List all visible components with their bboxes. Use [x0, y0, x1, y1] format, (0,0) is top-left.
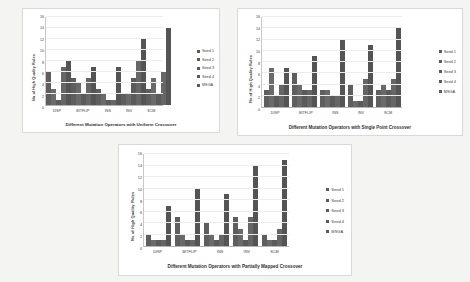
legend-item-seed-4: Seed 4 [197, 75, 214, 79]
y-axis-tick-label: 10 [138, 188, 142, 192]
bar-groups [144, 154, 289, 246]
x-axis-tick-label: SCM [270, 250, 278, 254]
grid-line [46, 38, 163, 39]
legend-item-seed-1: Seed 1 [326, 187, 344, 192]
y-axis-tick-label: 12 [256, 38, 260, 42]
y-axis-tick-labels: 0246810121416 [119, 145, 142, 275]
bar-group-disp [146, 154, 171, 246]
y-axis-tick-labels: 0246810121416 [238, 9, 260, 135]
grid-line [144, 234, 289, 235]
bar-group-scm [146, 17, 171, 105]
grid-line [262, 16, 402, 17]
legend-label: Seed 2 [444, 59, 456, 64]
y-axis-tick-label: 8 [42, 61, 44, 65]
grid-line [46, 71, 163, 72]
grid-line [144, 211, 289, 212]
bar-bitflip-msga [312, 56, 317, 107]
x-axis-tick-labels: DISPBITFLIPINSINVSCM [143, 250, 289, 254]
bar-group-ins [96, 17, 121, 105]
x-axis-tick-label: BITFLIP [76, 109, 89, 113]
y-axis-tick-label: 14 [40, 26, 44, 30]
legend-label: Seed 3 [444, 69, 456, 74]
y-axis-tick-label: 16 [138, 152, 142, 156]
legend-label: MSGA [202, 83, 213, 87]
y-axis-tick-label: 0 [42, 106, 44, 110]
grid-line [144, 188, 289, 189]
grid-line [46, 27, 163, 28]
legend-item-seed-4: Seed 4 [439, 79, 456, 84]
bar-group-scm [262, 154, 287, 246]
bar-disp-msga [284, 68, 289, 107]
y-axis-tick-label: 12 [40, 38, 44, 42]
y-axis-tick-label: 6 [140, 211, 142, 215]
legend-swatch-icon [326, 188, 329, 191]
bar-scm-msga [166, 28, 171, 105]
bar-disp-msga [166, 206, 171, 246]
legend-swatch-icon [439, 80, 442, 83]
x-axis-tick-label: INS [332, 111, 338, 115]
chart-panel-single-point-crossover: No of High Quality Rules 0246810121416 D… [237, 8, 463, 136]
grid-line [262, 61, 402, 62]
grid-line [46, 93, 163, 94]
grid-line [262, 95, 402, 96]
y-axis-tick-label: 4 [140, 223, 142, 227]
y-axis-tick-label: 2 [140, 235, 142, 239]
y-axis-tick-label: 0 [258, 108, 260, 112]
legend-uniform: Seed 1Seed 2Seed 3Seed 4MSGA [197, 49, 214, 87]
bar-group-bitflip [71, 17, 96, 105]
legend-swatch-icon [439, 70, 442, 73]
legend-label: MSGA [331, 229, 343, 234]
bar-groups [46, 17, 163, 105]
x-axis-tick-label: INV [244, 250, 250, 254]
x-axis-tick-label: DISP [153, 250, 162, 254]
legend-swatch-icon [326, 209, 329, 212]
legend-label: MSGA [444, 89, 455, 94]
legend-label: Seed 4 [331, 219, 344, 224]
y-axis-tick-label: 14 [256, 27, 260, 31]
legend-item-msga: MSGA [326, 229, 344, 234]
chart-panel-partially-mapped-crossover: No of High Quality Rules 0246810121416 D… [118, 144, 352, 276]
y-axis-tick-label: 8 [258, 62, 260, 66]
x-axis-title: Different Mutation Operators with Unifor… [23, 122, 219, 127]
x-axis-tick-label: BITFLIP [182, 250, 196, 254]
grid-line [144, 222, 289, 223]
x-axis-title: Different Mutation Operators with Partia… [119, 264, 351, 269]
grid-line [46, 82, 163, 83]
grid-line [262, 72, 402, 73]
y-axis-tick-label: 10 [40, 49, 44, 53]
bar-groups [262, 17, 402, 107]
x-axis-tick-labels: DISPBITFLIPINSINVSCM [45, 109, 163, 113]
x-axis-tick-label: INV [358, 111, 364, 115]
legend-swatch-icon [439, 50, 442, 53]
legend-swatch-icon [326, 199, 329, 202]
x-axis-tick-label: SCM [384, 111, 392, 115]
x-axis-tick-label: INS [105, 109, 111, 113]
grid-line [46, 49, 163, 50]
legend-swatch-icon [439, 60, 442, 63]
y-axis-tick-label: 14 [138, 164, 142, 168]
legend-item-seed-3: Seed 3 [197, 66, 214, 70]
y-axis-tick-label: 8 [140, 200, 142, 204]
bar-bitflip-msga [195, 189, 200, 247]
legend-item-seed-3: Seed 3 [439, 69, 456, 74]
plot-area-pmx [143, 154, 289, 247]
grid-line [262, 27, 402, 28]
chart-panel-uniform-crossover: No of High Quality Rules 0246810121416 D… [22, 8, 220, 133]
legend-label: Seed 4 [444, 79, 456, 84]
y-axis-tick-label: 6 [258, 73, 260, 77]
grid-line [144, 165, 289, 166]
legend-item-msga: MSGA [197, 83, 214, 87]
legend-swatch-icon [197, 67, 200, 70]
bar-group-bitflip [292, 17, 317, 107]
grid-line [46, 16, 163, 17]
bar-group-bitflip [175, 154, 200, 246]
x-axis-tick-label: INS [217, 250, 223, 254]
legend-item-seed-2: Seed 2 [326, 198, 344, 203]
legend-item-msga: MSGA [439, 89, 456, 94]
bar-group-inv [348, 17, 373, 107]
x-axis-tick-label: BITFLIP [299, 111, 313, 115]
legend-item-seed-2: Seed 2 [439, 59, 456, 64]
y-axis-tick-labels: 0246810121416 [23, 9, 44, 132]
legend-item-seed-1: Seed 1 [197, 49, 214, 53]
bar-group-scm [376, 17, 401, 107]
